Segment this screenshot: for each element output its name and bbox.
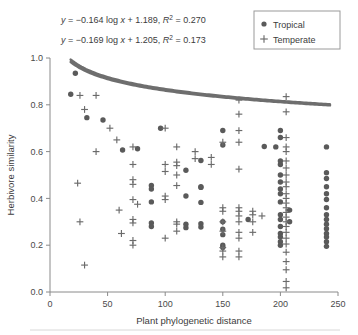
data-point-tropical (278, 212, 283, 217)
data-point-tropical (324, 239, 329, 244)
data-point-temperate (283, 158, 290, 165)
data-point-temperate (283, 229, 290, 236)
data-point-temperate (283, 235, 290, 242)
data-point-temperate (283, 183, 290, 190)
data-point-temperate (74, 180, 81, 187)
x-tick-label: 100 (158, 299, 173, 309)
data-point-tropical (183, 193, 188, 198)
data-point-temperate (192, 148, 199, 155)
data-point-temperate (130, 242, 137, 249)
data-point-tropical (278, 186, 283, 191)
eq2-tail: = 0.173 (173, 35, 206, 45)
x-tick-label: 250 (330, 299, 345, 309)
equation-temperate: y = −0.169 log x + 1.205, R2 = 0.173 (60, 34, 206, 46)
data-point-temperate (219, 208, 226, 215)
data-point-temperate (134, 201, 141, 208)
data-point-tropical (324, 212, 329, 217)
data-point-temperate (130, 161, 137, 168)
data-point-temperate (236, 218, 243, 225)
data-point-tropical (273, 144, 278, 149)
data-point-temperate (283, 241, 290, 248)
data-point-temperate (283, 249, 290, 256)
data-point-temperate (236, 139, 243, 146)
data-point-tropical (198, 224, 203, 229)
data-point-temperate (93, 92, 100, 99)
data-point-temperate (77, 92, 84, 99)
data-point-temperate (93, 148, 100, 155)
data-point-temperate (283, 134, 290, 141)
data-point-tropical (324, 144, 329, 149)
data-point-temperate (162, 235, 169, 242)
data-point-tropical (183, 225, 188, 230)
data-point-temperate (283, 165, 290, 172)
data-point-temperate (81, 106, 88, 113)
scatter-plot: y = −0.164 log x + 1.189, R2 = 0.270 y =… (0, 0, 358, 335)
y-tick-label: 0.2 (30, 240, 43, 250)
data-point-temperate (283, 172, 290, 179)
data-point-tropical (278, 217, 283, 222)
data-point-tropical (198, 158, 203, 163)
fit-line-tropical (71, 62, 330, 105)
data-point-tropical (278, 162, 283, 167)
y-tick-label: 0.4 (30, 194, 43, 204)
data-point-temperate (113, 137, 120, 144)
data-point-temperate (130, 220, 137, 227)
data-point-temperate (116, 207, 123, 214)
x-tick-label: 200 (273, 299, 288, 309)
figure-container: y = −0.164 log x + 1.189, R2 = 0.270 y =… (0, 0, 358, 335)
data-point-tropical (324, 234, 329, 239)
equation-tropical: y = −0.164 log x + 1.189, R2 = 0.270 (60, 14, 206, 26)
data-point-tropical (220, 128, 225, 133)
data-point-temperate (77, 218, 84, 225)
data-point-tropical (198, 185, 203, 190)
legend-marker-circle-icon (261, 21, 266, 26)
data-point-temperate (173, 162, 180, 169)
data-point-temperate (208, 161, 215, 168)
data-point-temperate (118, 230, 125, 237)
data-point-temperate (283, 108, 290, 115)
data-point-tropical (198, 200, 203, 205)
data-point-temperate (283, 93, 290, 100)
data-point-tropical (149, 186, 154, 191)
data-point-temperate (283, 284, 290, 291)
data-point-temperate (219, 218, 226, 225)
eq2-mid: + 1.205, (125, 35, 163, 45)
data-point-temperate (162, 168, 169, 175)
data-point-temperate (107, 125, 114, 132)
y-tick-label: 0.6 (30, 147, 43, 157)
data-point-temperate (162, 161, 169, 168)
data-point-temperate (283, 278, 290, 285)
legend: Tropical Temperate (254, 11, 340, 49)
data-point-temperate (236, 229, 243, 236)
data-point-tropical (324, 221, 329, 226)
x-tick-label: 150 (215, 299, 230, 309)
data-point-tropical (324, 244, 329, 249)
data-point-temperate (130, 181, 137, 188)
eq1-tail: = 0.270 (173, 15, 206, 25)
data-point-tropical (324, 184, 329, 189)
data-point-temperate (192, 155, 199, 162)
data-point-tropical (324, 170, 329, 175)
data-point-tropical (120, 147, 125, 152)
data-point-temperate (236, 248, 243, 255)
data-point-temperate (283, 266, 290, 273)
x-tick-label: 50 (103, 299, 113, 309)
y-tick-label: 0.8 (30, 100, 43, 110)
data-point-temperate (130, 196, 137, 203)
data-point-temperate (236, 254, 243, 261)
data-point-temperate (236, 213, 243, 220)
data-point-temperate (236, 111, 243, 118)
eq2-body: = −0.169 log (66, 35, 121, 45)
data-point-temperate (283, 258, 290, 265)
data-point-temperate (173, 182, 180, 189)
data-point-tropical (324, 226, 329, 231)
data-point-tropical (183, 168, 188, 173)
data-point-temperate (173, 144, 180, 151)
data-point-tropical (278, 199, 283, 204)
data-point-tropical (100, 117, 105, 122)
data-point-tropical (324, 217, 329, 222)
legend-label-temperate: Temperate (273, 35, 316, 45)
data-point-temperate (236, 235, 243, 242)
data-point-tropical (149, 199, 154, 204)
eq1-body: = −0.164 log (66, 15, 121, 25)
